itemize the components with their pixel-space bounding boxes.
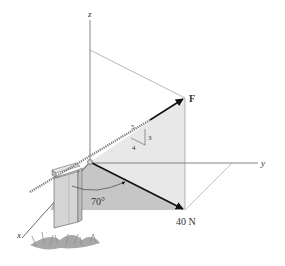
slope-rise-label: 3 [148,134,152,142]
origin-ring [88,160,93,165]
projection-magnitude-label: 40 N [176,216,196,227]
force-diagram: z y x F 40 N 70° 5 3 4 [0,0,285,266]
slope-hypotenuse-label: 5 [131,123,135,131]
y-axis-label: y [260,158,265,168]
slope-run-label: 4 [132,144,136,152]
force-label: F [189,93,195,104]
grass [30,232,100,249]
top-guide-line [90,50,185,98]
angle-label: 70° [91,196,105,207]
floor-guide-line [185,163,232,210]
z-axis-label: z [87,9,92,19]
post [52,163,82,228]
x-axis-label: x [16,230,21,240]
